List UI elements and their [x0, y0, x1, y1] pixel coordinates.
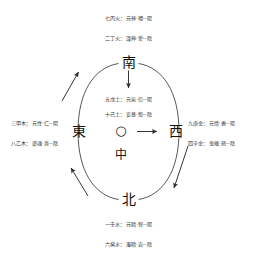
- phase-fire-yin-label: 二丁火：識神‧愛--陰: [0, 36, 257, 41]
- cardinal-north: 北: [0, 192, 257, 206]
- cardinal-west: 西: [168, 124, 184, 138]
- arrow-west-outer-down: [174, 146, 188, 188]
- phase-earth-yang-label: 五戊土：元氣‧信--陽: [0, 97, 257, 102]
- center-ring-glyph: ○: [113, 124, 129, 137]
- wuxing-diagram-canvas: 七丙火：元神‧禮--陽 二丁火：識神‧愛--陰 南 五戊土：元氣‧信--陽 十己…: [0, 0, 257, 266]
- phase-wood-yin-label: 八乙木：遊魂‧喜--陰: [11, 141, 58, 146]
- phase-metal-yin-label: 四辛金：鬼魄‧怒--陰: [188, 141, 235, 146]
- phase-earth-yin-label: 十己土：妄意‧慾--陰: [0, 112, 257, 117]
- phase-wood-yang-label: 三甲木：元性‧仁--陽: [11, 121, 58, 126]
- cardinal-east: 東: [71, 124, 87, 138]
- phase-metal-yang-label: 九庚金：元情‧義--陽: [188, 121, 235, 126]
- cardinal-south: 南: [0, 55, 257, 69]
- phase-water-yang-label: 一壬水：元精‧智--陽: [0, 222, 257, 227]
- center-label: 中: [113, 149, 129, 161]
- phase-fire-yang-label: 七丙火：元神‧禮--陽: [0, 16, 257, 21]
- phase-water-yin-label: 六癸水：濁精‧哀--陰: [0, 242, 257, 247]
